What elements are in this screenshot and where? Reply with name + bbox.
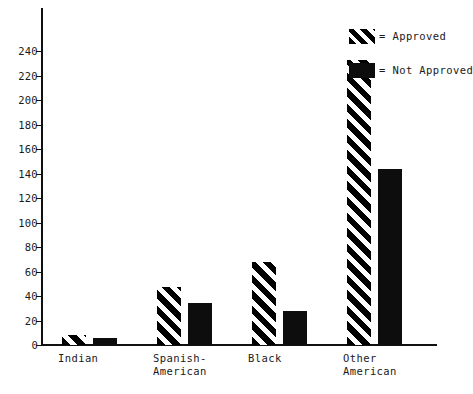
y-axis-tick: 100 [0,218,38,228]
y-axis-tick-mark [36,174,41,175]
y-axis-tick-label: 180 [4,120,38,130]
bar-approved [252,262,276,345]
x-axis-category-label: Black [248,352,282,365]
y-axis-tick-label: 100 [4,218,38,228]
y-axis-tick-label: 160 [4,144,38,154]
legend-label-approved: = Approved [379,30,446,43]
bar-not-approved [188,303,212,345]
bar-approved [157,287,181,345]
y-axis-tick: 240 [0,46,38,56]
y-axis-tick-label: 200 [4,95,38,105]
y-axis-tick-mark [36,321,41,322]
y-axis-tick-mark [36,296,41,297]
y-axis-tick-mark [36,125,41,126]
y-axis-tick-mark [36,100,41,101]
y-axis-tick-mark [36,76,41,77]
legend-label-not-approved: = Not Approved [379,64,473,77]
solid-swatch-icon [349,63,375,78]
y-axis-tick-mark [36,247,41,248]
bar-approved [62,335,86,345]
y-axis-tick: 160 [0,144,38,154]
y-axis-tick: 220 [0,71,38,81]
y-axis-tick-mark [36,198,41,199]
bar-approved [347,60,371,345]
bar-not-approved [93,338,117,345]
y-axis-tick: 20 [0,316,38,326]
y-axis-tick-mark [36,272,41,273]
y-axis-tick-label: 20 [4,316,38,326]
y-axis-tick-label: 240 [4,46,38,56]
y-axis-tick-mark [36,223,41,224]
y-axis-tick-label: 60 [4,267,38,277]
bar-not-approved [378,169,402,345]
y-axis-tick: 140 [0,169,38,179]
y-axis-tick-label: 80 [4,242,38,252]
y-axis-line [41,8,43,346]
y-axis-tick: 80 [0,242,38,252]
bar-not-approved [283,311,307,345]
y-axis-tick: 180 [0,120,38,130]
y-axis-tick-mark [36,51,41,52]
y-axis-tick-label: 120 [4,193,38,203]
y-axis-tick: 40 [0,291,38,301]
x-axis-category-label: Other American [343,352,397,377]
y-axis-tick-label: 0 [4,340,38,350]
y-axis-tick: 0 [0,340,38,350]
y-axis-tick-mark [36,149,41,150]
y-axis-tick-label: 40 [4,291,38,301]
y-axis-tick-label: 220 [4,71,38,81]
y-axis-tick: 200 [0,95,38,105]
hatched-swatch-icon [349,29,375,44]
y-axis-tick-label: 140 [4,169,38,179]
y-axis-tick: 120 [0,193,38,203]
x-axis-category-label: Spanish- American [153,352,207,377]
y-axis-tick: 60 [0,267,38,277]
x-axis-category-label: Indian [58,352,98,365]
y-axis-tick-mark [36,345,41,346]
